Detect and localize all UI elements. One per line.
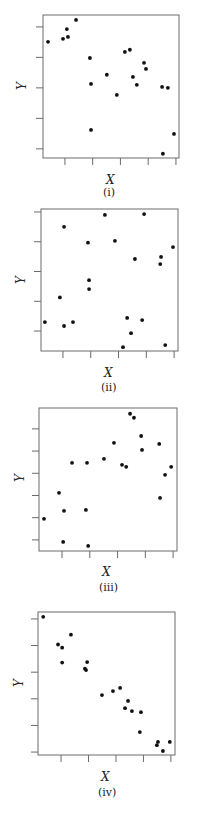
data-point bbox=[126, 699, 130, 703]
y-axis-label: Y bbox=[13, 679, 25, 687]
data-point bbox=[168, 740, 172, 744]
data-point bbox=[161, 749, 165, 753]
data-point bbox=[100, 693, 104, 697]
data-point bbox=[56, 643, 60, 647]
data-point bbox=[84, 668, 88, 672]
data-point bbox=[69, 633, 73, 637]
panel-caption: (iv) bbox=[98, 787, 116, 798]
data-point bbox=[139, 710, 143, 714]
data-point bbox=[123, 706, 127, 710]
plot-frame bbox=[38, 612, 175, 755]
data-point bbox=[156, 740, 160, 744]
x-axis-label: X bbox=[101, 771, 110, 783]
data-point bbox=[60, 646, 64, 650]
plot-area bbox=[0, 0, 198, 813]
scatter-panel-iv: Y X (iv) bbox=[0, 0, 198, 813]
data-point bbox=[118, 686, 122, 690]
data-point bbox=[85, 660, 89, 664]
data-point bbox=[138, 730, 142, 734]
data-point bbox=[111, 689, 115, 693]
data-point bbox=[60, 661, 64, 665]
data-point bbox=[130, 709, 134, 713]
data-point bbox=[41, 615, 45, 619]
scatter-figure: Y X (i) Y X (ii) Y X (iii) Y X (iv) bbox=[0, 0, 198, 813]
